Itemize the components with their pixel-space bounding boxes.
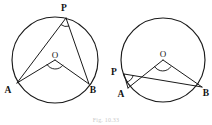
figure-caption: Fig. 10.33: [93, 117, 120, 123]
diagram-left-circle-major-arc: P O A B: [5, 3, 98, 103]
segment-oa: [128, 60, 163, 88]
segment-pb: [124, 74, 202, 87]
segment-pa: [124, 74, 128, 88]
point-label-a: A: [5, 85, 12, 95]
segment-pa: [17, 18, 66, 83]
point-label-p: P: [61, 3, 67, 13]
segment-ob: [55, 60, 89, 84]
angle-apb-mark: [61, 25, 69, 27]
point-label-b: B: [90, 85, 97, 95]
point-label-b: B: [203, 88, 210, 98]
segment-ob: [163, 60, 202, 87]
figure-canvas: P O A B P O A B Fig. 10.33: [0, 0, 212, 125]
point-label-o: O: [160, 49, 167, 59]
point-label-p: P: [111, 67, 117, 77]
angle-aob-mark: [155, 67, 171, 72]
segment-pb: [66, 18, 89, 84]
geometry-figure: P O A B P O A B Fig. 10.33: [0, 0, 212, 125]
angle-aob-mark: [47, 64, 63, 69]
point-label-a: A: [118, 89, 125, 99]
diagram-right-circle-minor-arc: P O A B: [111, 18, 210, 102]
point-label-o: O: [52, 50, 59, 60]
segment-oa: [17, 60, 55, 83]
